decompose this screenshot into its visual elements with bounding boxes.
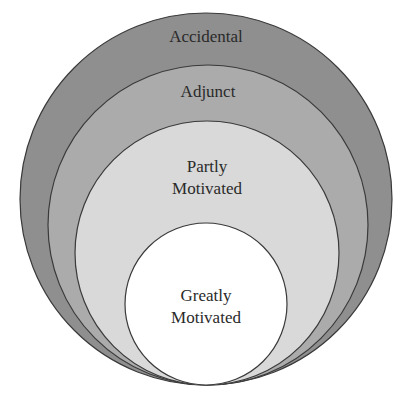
label-accidental: Accidental (169, 27, 243, 46)
label-adjunct: Adjunct (181, 82, 236, 101)
label-greatly: Greatly (181, 286, 232, 305)
label-partly-motivated: Motivated (172, 179, 242, 198)
label-greatly-motivated: Motivated (171, 308, 241, 327)
label-partly: Partly (187, 157, 228, 176)
layer-greatly-motivated: Greatly Motivated (125, 223, 287, 385)
nested-circle-diagram: Accidental Adjunct Partly Motivated Grea… (0, 0, 411, 400)
